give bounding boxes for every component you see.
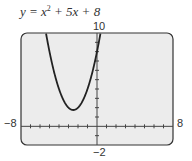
- graph-screen: [0, 0, 192, 161]
